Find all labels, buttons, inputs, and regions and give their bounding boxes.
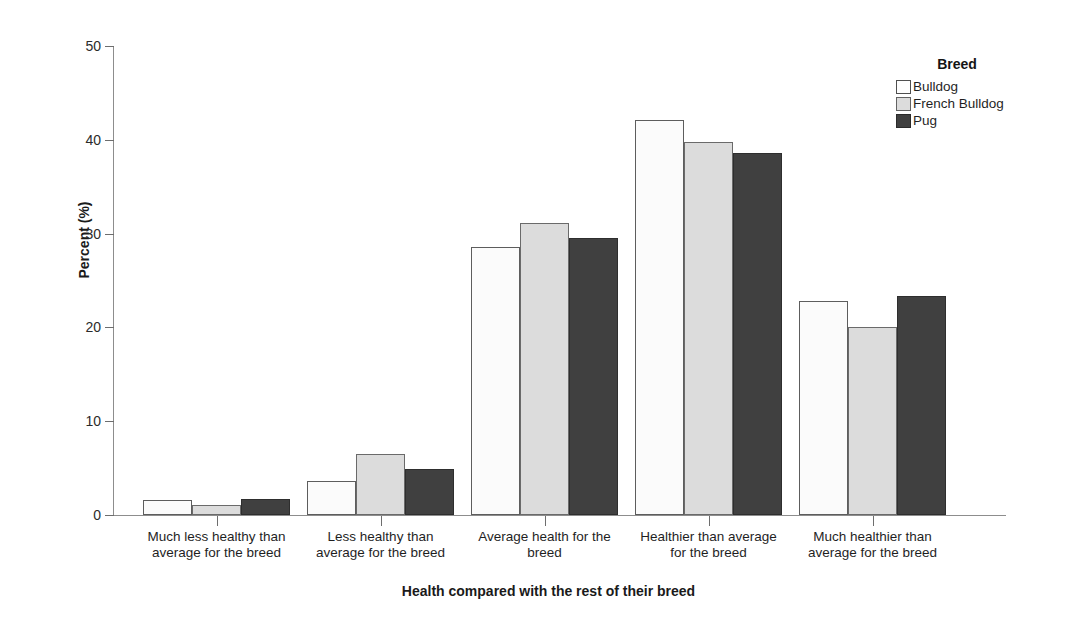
legend-item-label: Pug — [913, 113, 937, 128]
bar-chart-figure: Percent (%) 50403020100 Much less health… — [0, 0, 1077, 624]
legend-swatch-icon — [896, 114, 911, 128]
bar — [143, 500, 192, 515]
y-tick-mark — [105, 515, 114, 516]
bar — [356, 454, 405, 515]
y-tick-label: 20 — [55, 319, 101, 335]
bar — [733, 153, 782, 515]
legend-title: Breed — [896, 56, 1018, 72]
y-tick-label: 0 — [55, 507, 101, 523]
legend-item: Bulldog — [896, 79, 1072, 94]
bar — [520, 223, 569, 515]
y-tick-label: 30 — [55, 226, 101, 242]
legend-item: Pug — [896, 113, 1072, 128]
legend-item-label: Bulldog — [913, 79, 958, 94]
y-tick-label: 40 — [55, 132, 101, 148]
bar — [307, 481, 356, 515]
x-tick-mark — [873, 516, 874, 526]
y-tick-label: 10 — [55, 413, 101, 429]
legend-items: BulldogFrench BulldogPug — [896, 79, 1072, 128]
bar — [569, 238, 618, 515]
bar — [848, 327, 897, 515]
x-tick-mark — [709, 516, 710, 526]
x-category-label: Less healthy than average for the breed — [291, 529, 471, 561]
x-axis-title: Health compared with the rest of their b… — [0, 583, 1077, 599]
bar — [799, 301, 848, 515]
x-tick-mark — [545, 516, 546, 526]
legend-item-label: French Bulldog — [913, 96, 1004, 111]
x-category-label: Much healthier than average for the bree… — [783, 529, 963, 561]
bars-layer — [113, 46, 1006, 515]
x-category-label: Average health for the breed — [455, 529, 635, 561]
x-axis-title-text: Health compared with the rest of their b… — [402, 583, 695, 599]
x-tick-mark — [381, 516, 382, 526]
x-tick-mark — [217, 516, 218, 526]
legend: Breed BulldogFrench BulldogPug — [896, 56, 1072, 130]
legend-swatch-icon — [896, 97, 911, 111]
legend-swatch-icon — [896, 80, 911, 94]
bar — [471, 247, 520, 515]
x-category-label: Much less healthy than average for the b… — [127, 529, 307, 561]
legend-item: French Bulldog — [896, 96, 1072, 111]
bar — [192, 505, 241, 515]
x-category-label: Healthier than average for the breed — [619, 529, 799, 561]
y-tick-label: 50 — [55, 38, 101, 54]
bar — [897, 296, 946, 515]
bar — [241, 499, 290, 515]
bar — [635, 120, 684, 515]
bar — [684, 142, 733, 515]
bar — [405, 469, 454, 515]
